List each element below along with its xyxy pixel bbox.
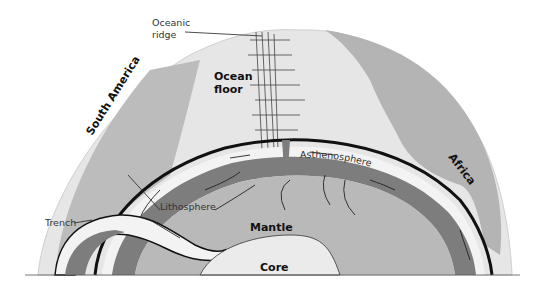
- label-mantle: Mantle: [250, 221, 293, 234]
- tectonics-diagram: Oceanic ridge Ocean floor South America …: [0, 0, 538, 291]
- label-ocean-floor-2: floor: [214, 83, 243, 96]
- label-oceanic-ridge-2: ridge: [152, 29, 177, 40]
- label-trench: Trench: [44, 217, 76, 228]
- label-lithosphere: Lithosphere: [160, 201, 216, 212]
- label-oceanic-ridge-1: Oceanic: [152, 17, 190, 28]
- label-core: Core: [260, 261, 289, 274]
- label-ocean-floor-1: Ocean: [214, 70, 253, 83]
